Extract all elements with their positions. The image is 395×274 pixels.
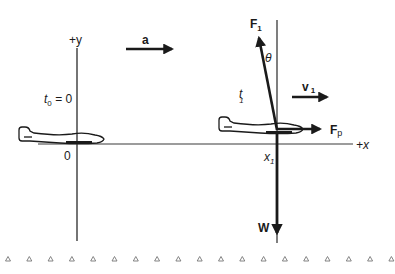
- ground-marker-icon: [91, 257, 96, 262]
- ground-marker-icon: [155, 257, 160, 262]
- ground-marker-icon: [240, 257, 245, 262]
- origin-label: 0: [64, 149, 71, 163]
- t1-label: t1: [239, 87, 244, 105]
- ground-marker-icon: [346, 257, 351, 262]
- t0-label: t0 = 0: [44, 92, 72, 108]
- ground-marker-icon: [282, 257, 287, 262]
- ground-marker-icon: [133, 257, 138, 262]
- ground-marker-icon: [176, 257, 181, 262]
- ground-marker-icon: [48, 257, 53, 262]
- ground-marker-icon: [27, 257, 32, 262]
- angle-theta-label: θ: [265, 51, 272, 65]
- position-x1-label: x1: [263, 150, 274, 166]
- velocity-label: v1: [302, 80, 316, 95]
- motion-diagram: +y +x 0 t0 = 0 a F1 θ t1 v1 Fp: [0, 0, 395, 274]
- propulsion-force-label: Fp: [330, 123, 342, 138]
- ground-marker-icon: [197, 257, 202, 262]
- x-axis-label: +x: [356, 138, 370, 152]
- glider-initial-wing: [66, 141, 92, 144]
- acceleration-label: a: [142, 33, 149, 47]
- lift-force-label: F1: [250, 17, 262, 33]
- ground-marker-icon: [368, 257, 373, 262]
- glider-later-wing: [266, 131, 292, 134]
- ground-marker-icon: [219, 257, 224, 262]
- ground-marker-icon: [304, 257, 309, 262]
- ground-marker-icon: [112, 257, 117, 262]
- ground-markers: [6, 257, 394, 262]
- y-axis-label: +y: [69, 33, 82, 47]
- ground-marker-icon: [389, 257, 394, 262]
- ground-marker-icon: [6, 257, 11, 262]
- weight-label: W: [258, 221, 270, 235]
- ground-marker-icon: [69, 257, 74, 262]
- ground-marker-icon: [261, 257, 266, 262]
- ground-marker-icon: [325, 257, 330, 262]
